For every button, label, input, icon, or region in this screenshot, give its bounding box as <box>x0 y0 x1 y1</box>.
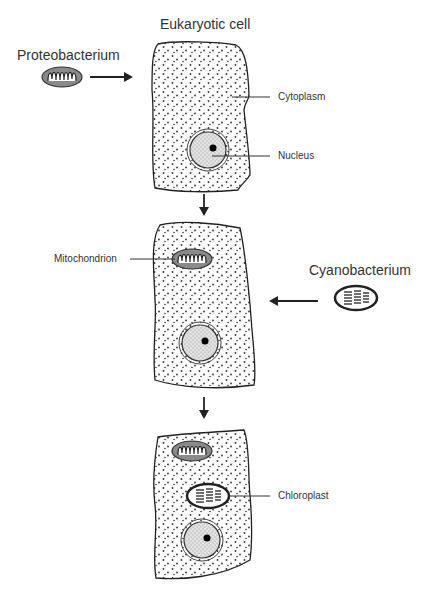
eukaryotic-cell-stage-1 <box>152 42 250 192</box>
cell-membrane <box>152 42 250 192</box>
mitochondrion-label: Mitochondrion <box>54 253 117 264</box>
nucleus-label: Nucleus <box>278 150 314 161</box>
mitochondrion-icon <box>172 249 212 269</box>
eukaryotic-cell-label: Eukaryotic cell <box>160 16 250 32</box>
arrow-down-icon <box>199 194 209 216</box>
eukaryotic-cell-stage-3 <box>154 430 252 579</box>
nucleus-icon <box>179 322 221 364</box>
proteobacterium-label: Proteobacterium <box>17 47 120 63</box>
diagram-canvas <box>0 0 427 590</box>
cell-membrane <box>153 222 254 387</box>
cytoplasm-label: Cytoplasm <box>278 91 325 102</box>
chloroplast-label: Chloroplast <box>278 490 329 501</box>
nucleus-icon <box>187 129 229 171</box>
arrow-left-icon <box>269 296 318 306</box>
cyanobacterium-icon <box>335 286 377 310</box>
chloroplast-icon <box>187 484 229 508</box>
proteobacterium-icon <box>42 67 82 87</box>
arrow-down-icon <box>199 397 209 419</box>
arrow-right-icon <box>90 72 133 82</box>
mitochondrion-icon <box>172 441 212 461</box>
nucleus-icon <box>181 519 223 561</box>
eukaryotic-cell-stage-2 <box>153 222 254 387</box>
cyanobacterium-label: Cyanobacterium <box>309 262 411 278</box>
